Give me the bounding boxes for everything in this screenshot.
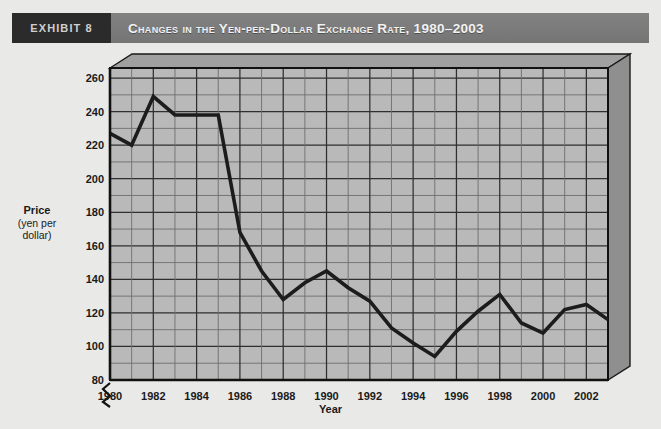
y-axis-title: Price (yen per dollar) — [8, 204, 66, 242]
x-axis-tick-1988: 1988 — [263, 390, 303, 402]
x-axis-tick-2002: 2002 — [566, 390, 606, 402]
x-axis-tick-labels: 1980198219841986198819901992199419961998… — [0, 46, 661, 429]
x-axis-tick-2000: 2000 — [523, 390, 563, 402]
x-axis-tick-1980: 1980 — [90, 390, 130, 402]
y-axis-title-main: Price — [8, 204, 66, 217]
x-axis-tick-1994: 1994 — [393, 390, 433, 402]
y-axis-title-sub: (yen per dollar) — [8, 217, 66, 242]
page-title: Changes in the Yen-per-Dollar Exchange R… — [128, 13, 484, 43]
x-axis-tick-1982: 1982 — [133, 390, 173, 402]
exhibit-tag-label: EXHIBIT 8 — [30, 22, 92, 34]
exhibit-figure: EXHIBIT 8 Changes in the Yen-per-Dollar … — [0, 0, 661, 429]
exhibit-tag: EXHIBIT 8 — [12, 13, 111, 43]
x-axis-tick-1986: 1986 — [220, 390, 260, 402]
x-axis-title: Year — [0, 403, 661, 415]
chart-area: 80100120140160180200220240260 1980198219… — [0, 46, 661, 429]
x-axis-tick-1998: 1998 — [480, 390, 520, 402]
x-axis-tick-1992: 1992 — [350, 390, 390, 402]
x-axis-tick-1984: 1984 — [177, 390, 217, 402]
x-axis-tick-1990: 1990 — [307, 390, 347, 402]
x-axis-tick-1996: 1996 — [436, 390, 476, 402]
